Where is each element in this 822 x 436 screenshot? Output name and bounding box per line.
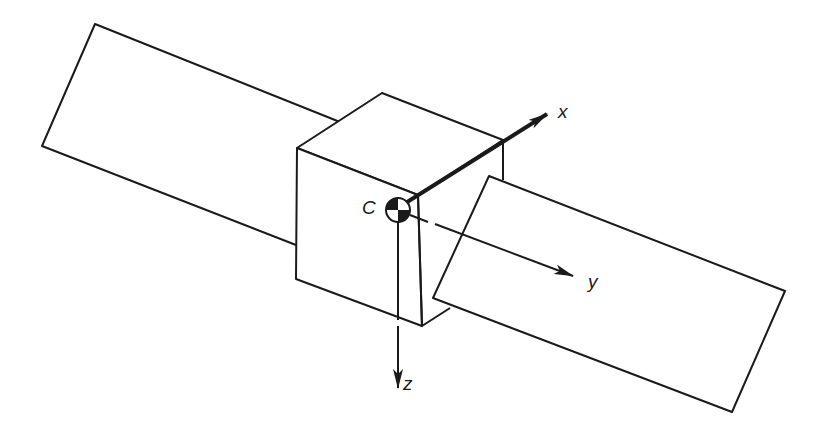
x-axis-label: x: [557, 101, 569, 122]
right-solar-panel: [433, 176, 785, 412]
satellite-axes-diagram: C x y z: [0, 0, 822, 436]
z-axis-label: z: [402, 373, 413, 394]
left-solar-panel: [42, 24, 340, 245]
y-axis-label: y: [586, 271, 599, 292]
center-label: C: [362, 197, 376, 218]
center-of-mass-marker: [386, 198, 410, 222]
diagram-canvas: C x y z: [0, 0, 822, 436]
